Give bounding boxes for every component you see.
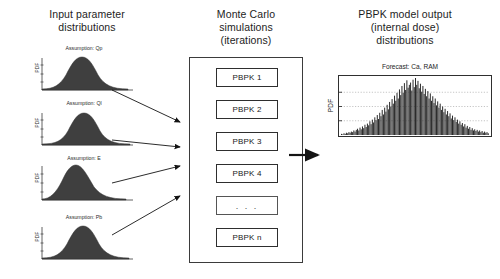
distribution-plot-qp: Assumption: Qp PDF bbox=[30, 46, 138, 92]
distribution-curve: PDF bbox=[40, 108, 138, 146]
distribution-ylabel: PDF bbox=[35, 232, 40, 242]
normal-curve-icon bbox=[40, 222, 138, 260]
distribution-plot-e: Assumption: E PDF bbox=[30, 156, 138, 202]
distribution-label: Assumption: E bbox=[30, 155, 138, 162]
distribution-curve: PDF bbox=[40, 222, 138, 260]
distribution-plot-pb: Assumption: Pb PDF bbox=[30, 215, 138, 261]
pbpk-item-4[interactable]: PBPK 4 bbox=[216, 164, 278, 183]
distribution-label: Assumption: Qp bbox=[30, 45, 138, 52]
left-heading-line1: Input parameter bbox=[12, 8, 162, 21]
diagram-canvas: Input parameter distributions Assumption… bbox=[0, 0, 500, 279]
right-column-heading: PBPK model output (internal dose) distri… bbox=[315, 8, 495, 47]
right-heading-line3: distributions bbox=[315, 34, 495, 47]
middle-heading-line1: Monte Carlo bbox=[182, 8, 310, 21]
pbpk-item-2[interactable]: PBPK 2 bbox=[216, 100, 278, 119]
middle-heading-line2: simulations bbox=[182, 21, 310, 34]
distribution-ylabel: PDF bbox=[35, 63, 40, 73]
monte-carlo-container: PBPK 1 PBPK 2 PBPK 3 PBPK 4 . . . PBPK n bbox=[189, 57, 303, 263]
pbpk-item-1[interactable]: PBPK 1 bbox=[216, 68, 278, 87]
distribution-curve: PDF bbox=[40, 163, 138, 201]
pbpk-item-n[interactable]: PBPK n bbox=[216, 228, 278, 247]
pbpk-item-3[interactable]: PBPK 3 bbox=[216, 132, 278, 151]
normal-curve-icon bbox=[40, 163, 138, 201]
pbpk-item-ellipsis: . . . bbox=[216, 196, 278, 215]
distribution-ylabel: PDF bbox=[35, 173, 40, 183]
left-heading-line2: distributions bbox=[12, 21, 162, 34]
distribution-label: Assumption: Pb bbox=[30, 214, 138, 221]
distribution-ylabel: PDF bbox=[35, 118, 40, 128]
forecast-ylabel: PDF bbox=[327, 99, 334, 113]
left-column-heading: Input parameter distributions bbox=[12, 8, 162, 34]
normal-curve-icon bbox=[40, 53, 138, 91]
distribution-label: Assumption: Ql bbox=[30, 100, 138, 107]
histogram-svg bbox=[338, 75, 492, 137]
right-heading-line1: PBPK model output bbox=[315, 8, 495, 21]
distribution-curve: PDF bbox=[40, 53, 138, 91]
forecast-title: Forecast: Ca, RAM bbox=[326, 62, 494, 71]
normal-curve-icon bbox=[40, 108, 138, 146]
forecast-chart: Forecast: Ca, RAM PDF bbox=[326, 62, 494, 148]
middle-column-heading: Monte Carlo simulations (iterations) bbox=[182, 8, 310, 47]
distribution-plot-ql: Assumption: Ql PDF bbox=[30, 101, 138, 147]
middle-heading-line3: (iterations) bbox=[182, 34, 310, 47]
right-heading-line2: (internal dose) bbox=[315, 21, 495, 34]
forecast-histogram-plot bbox=[338, 75, 492, 137]
